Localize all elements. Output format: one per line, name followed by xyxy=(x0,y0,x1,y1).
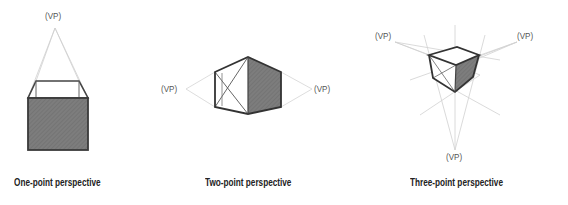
two-point-figure xyxy=(186,57,312,114)
vp-label-one-point: (VP) xyxy=(45,10,61,21)
vp-label-three-point-bottom: (VP) xyxy=(446,151,462,162)
vp-label-two-point-left: (VP) xyxy=(161,83,177,94)
perspective-drawings xyxy=(0,0,568,205)
three-point-figure xyxy=(395,25,517,150)
vp-label-three-point-left: (VP) xyxy=(375,30,391,41)
one-point-figure xyxy=(28,28,88,150)
caption-one-point: One-point perspective xyxy=(14,177,101,188)
caption-two-point: Two-point perspective xyxy=(205,177,291,188)
vp-label-three-point-right: (VP) xyxy=(517,30,533,41)
perspective-diagram: (VP) (VP) (VP) (VP) (VP) (VP) One-point … xyxy=(0,0,568,205)
caption-three-point: Three-point perspective xyxy=(410,177,503,188)
vp-label-two-point-right: (VP) xyxy=(314,83,330,94)
